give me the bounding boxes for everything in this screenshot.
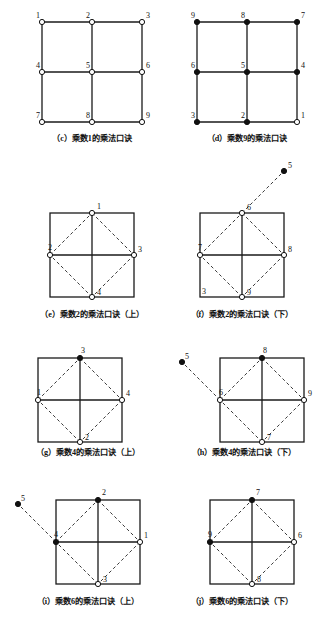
diamond-dashed-edge [38, 400, 80, 442]
node-3 [194, 119, 199, 124]
diamond-dashed-edge [80, 358, 122, 400]
node-label-8: 8 [241, 11, 245, 20]
node-label-1: 1 [97, 202, 101, 211]
diamond-dashed-edge [200, 255, 242, 297]
node-label-8: 8 [86, 111, 90, 120]
node-7 [259, 439, 264, 444]
node-6 [194, 69, 199, 74]
diamond-dashed-edge [50, 213, 92, 255]
node-9 [139, 119, 144, 124]
node-label-4: 4 [54, 530, 58, 539]
node-label-6: 6 [247, 203, 251, 212]
node-4 [294, 69, 299, 74]
diamond-dashed-edge [242, 213, 284, 255]
node-label-5: 5 [185, 352, 189, 361]
node-label-2: 2 [86, 11, 90, 20]
caption-c: （c）乘数1的乘法口诀 [22, 133, 162, 144]
node-label-2: 2 [48, 243, 52, 252]
node-1 [35, 397, 40, 402]
node-label-5: 5 [21, 494, 25, 503]
node-label-8: 8 [263, 346, 267, 355]
node-label-7: 7 [256, 488, 260, 497]
diamond-dashed-edge [38, 358, 80, 400]
node-label-2: 2 [241, 111, 245, 120]
node-9 [194, 19, 199, 24]
node-label-3: 3 [81, 346, 85, 355]
diamond-dashed-edge [92, 213, 134, 255]
node-6 [291, 539, 296, 544]
node-8 [89, 119, 94, 124]
diamond-dashed-edge [56, 542, 98, 584]
node-9 [301, 397, 306, 402]
node-label-1: 1 [36, 11, 40, 20]
node-label-9: 9 [208, 530, 212, 539]
node-4 [119, 397, 124, 402]
node-label-8: 8 [257, 575, 261, 584]
diamond-dashed-edge [50, 255, 92, 297]
node-7 [39, 119, 44, 124]
node-label-4: 4 [97, 288, 101, 297]
diamond-dashed-edge [98, 500, 140, 542]
caption-d: （d）乘数9的乘法口诀 [177, 133, 317, 144]
node-1 [39, 19, 44, 24]
node-label-5: 5 [241, 61, 245, 70]
node-label-7: 7 [36, 111, 40, 120]
node-label-5: 5 [86, 61, 90, 70]
node-3 [77, 355, 82, 360]
node-6 [239, 210, 244, 215]
node-label-4: 4 [36, 61, 40, 70]
node-label-9: 9 [247, 288, 251, 297]
node-9 [239, 294, 244, 299]
node-1 [137, 539, 142, 544]
node-label-7: 7 [267, 433, 271, 442]
node-label-2: 2 [102, 488, 106, 497]
node-label-9: 9 [308, 389, 312, 398]
node-6 [217, 397, 222, 402]
node-2 [77, 439, 82, 444]
corner-label-3: 3 [202, 287, 206, 296]
node-5 [15, 501, 20, 506]
node-label-6: 6 [219, 388, 223, 397]
external-dashed-connector [18, 504, 56, 542]
node-3 [95, 581, 100, 586]
node-label-1: 1 [301, 111, 305, 120]
node-1 [294, 119, 299, 124]
node-label-6: 6 [191, 61, 195, 70]
node-7 [249, 497, 254, 502]
node-7 [294, 19, 299, 24]
panel-d-drawing: 987654321 [145, 0, 332, 174]
diamond-dashed-edge [200, 213, 242, 255]
diamond-dashed-edge [210, 542, 252, 584]
diamond-dashed-edge [210, 500, 252, 542]
node-label-1: 1 [144, 531, 148, 540]
node-6 [139, 69, 144, 74]
node-2 [47, 252, 52, 257]
node-label-3: 3 [103, 575, 107, 584]
node-8 [259, 355, 264, 360]
node-7 [197, 252, 202, 257]
external-dashed-connector [182, 362, 220, 400]
caption-i: （i）乘数6的乘法口诀（上） [12, 596, 164, 607]
diamond-dashed-edge [220, 400, 262, 442]
caption-j: （j）乘数6的乘法口诀（下） [166, 596, 318, 607]
node-2 [95, 497, 100, 502]
diamond-dashed-edge [252, 500, 294, 542]
node-1 [89, 210, 94, 215]
node-4 [39, 69, 44, 74]
node-label-4: 4 [301, 61, 305, 70]
node-2 [244, 119, 249, 124]
node-label-3: 3 [191, 111, 195, 120]
node-8 [244, 19, 249, 24]
node-label-7: 7 [301, 11, 305, 20]
panel-d: 987654321 [145, 0, 332, 174]
node-5 [244, 69, 249, 74]
diamond-dashed-edge [262, 358, 304, 400]
node-label-8: 8 [288, 245, 292, 254]
node-label-1: 1 [37, 388, 41, 397]
node-5 [179, 359, 184, 364]
node-label-5: 5 [288, 161, 292, 170]
diamond-dashed-edge [220, 358, 262, 400]
diamond-dashed-edge [56, 500, 98, 542]
node-label-6: 6 [298, 531, 302, 540]
figure-multiplication-rhymes-diagrams: 123456789（c）乘数1的乘法口诀987654321（d）乘数9的乘法口诀… [0, 0, 332, 631]
